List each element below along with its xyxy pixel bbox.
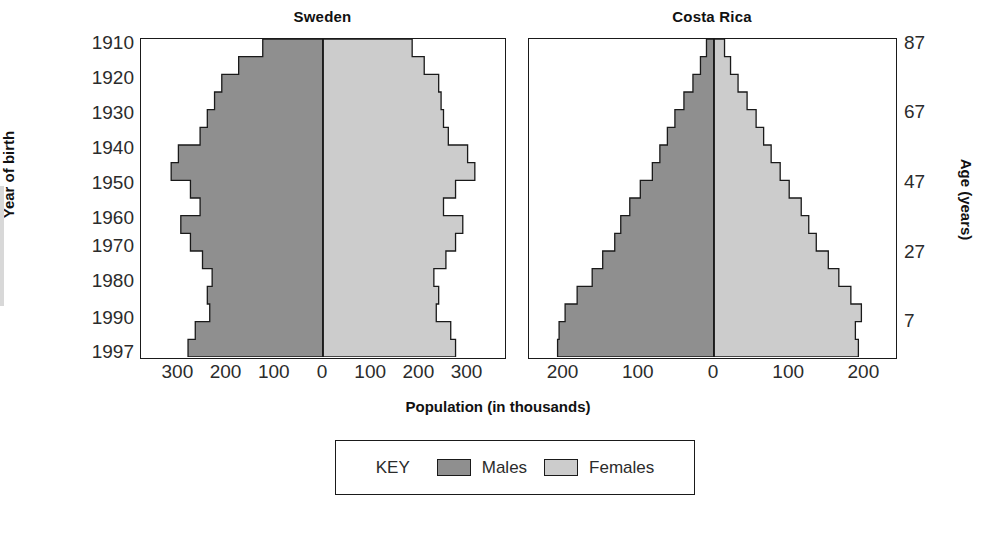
y-tick-1997: 1997: [56, 341, 134, 363]
legend-item-females: Females: [544, 458, 654, 478]
x-tick-sweden-6: 300: [441, 361, 493, 383]
x-tick-costarica-3: 100: [762, 361, 814, 383]
chart-canvas: Sweden 191019201930194019501960197019801…: [0, 0, 996, 537]
legend-swatch-females-icon: [544, 459, 578, 476]
y-tick-1940: 1940: [56, 137, 134, 159]
legend-label-females: Females: [589, 458, 654, 478]
x-tick-costarica-4: 200: [837, 361, 889, 383]
x-tick-sweden-5: 200: [392, 361, 444, 383]
legend-key-label: KEY: [376, 458, 410, 478]
scan-artifact: [0, 186, 4, 306]
y-tick-1980: 1980: [56, 270, 134, 292]
panel-title-sweden: Sweden: [140, 8, 505, 25]
legend-label-males: Males: [482, 458, 527, 478]
y-tick-1930: 1930: [56, 102, 134, 124]
bars-males: [171, 39, 323, 357]
age-tick-27: 27: [904, 241, 944, 263]
y-tick-1990: 1990: [56, 307, 134, 329]
x-tick-sweden-0: 300: [151, 361, 203, 383]
bars-females: [323, 39, 475, 357]
x-axis-title: Population (in thousands): [0, 398, 996, 415]
y-tick-1960: 1960: [56, 207, 134, 229]
legend-item-males: Males: [437, 458, 527, 478]
x-tick-sweden-4: 100: [344, 361, 396, 383]
bars-males: [558, 39, 714, 357]
y-axis-title-age: Age (years): [958, 125, 975, 275]
x-tick-sweden-2: 100: [248, 361, 300, 383]
legend-swatch-males-icon: [437, 459, 471, 476]
bars-females: [714, 39, 861, 357]
panel-title-costa-rica: Costa Rica: [528, 8, 896, 25]
plot-area-costa-rica: [528, 38, 897, 359]
x-tick-costarica-1: 100: [612, 361, 664, 383]
plot-area-sweden: [140, 38, 506, 359]
legend: KEY Males Females: [335, 440, 695, 495]
x-tick-costarica-0: 200: [537, 361, 589, 383]
age-tick-47: 47: [904, 171, 944, 193]
x-tick-costarica-2: 0: [687, 361, 739, 383]
age-tick-87: 87: [904, 32, 944, 54]
y-tick-1970: 1970: [56, 235, 134, 257]
x-tick-sweden-1: 200: [200, 361, 252, 383]
y-tick-1910: 1910: [56, 32, 134, 54]
age-tick-7: 7: [904, 310, 944, 332]
age-tick-67: 67: [904, 101, 944, 123]
y-tick-1920: 1920: [56, 67, 134, 89]
y-tick-1950: 1950: [56, 172, 134, 194]
x-tick-sweden-3: 0: [296, 361, 348, 383]
